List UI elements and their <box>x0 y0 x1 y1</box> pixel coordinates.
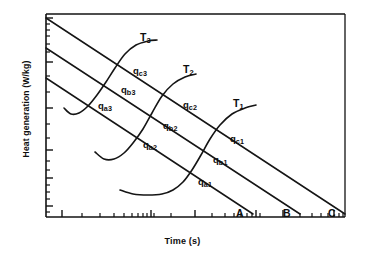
intersection-label-qa2-base: q <box>143 139 149 150</box>
curve-label-t3: T3 <box>140 32 151 43</box>
intersection-label-qb3-sub: b3 <box>127 88 136 97</box>
intersection-label-qb2-sub: b2 <box>169 124 178 133</box>
dissipation-line-c <box>46 18 345 214</box>
curve-label-t2: T2 <box>183 64 194 75</box>
intersection-label-qa3-base: q <box>98 100 104 111</box>
intersection-label-qa2: qa2 <box>143 140 157 150</box>
line-label-c: C <box>328 208 336 219</box>
intersection-label-qb2-base: q <box>163 120 169 131</box>
intersection-label-qa1: qa1 <box>198 177 212 187</box>
intersection-label-qc3: qc3 <box>133 66 147 76</box>
intersection-label-qb2: qb2 <box>163 121 178 131</box>
line-label-a: A <box>236 208 244 219</box>
intersection-label-qa3-sub: a3 <box>104 104 113 113</box>
plot-canvas <box>0 0 365 258</box>
intersection-label-qa3: qa3 <box>98 101 112 111</box>
line-label-b: B <box>283 208 291 219</box>
intersection-label-qc2: qc2 <box>183 100 197 110</box>
intersection-label-qb3: qb3 <box>121 85 136 95</box>
curve-label-t1: T1 <box>233 98 244 109</box>
intersection-label-qc1-base: q <box>230 133 236 144</box>
intersection-label-qc2-sub: c2 <box>189 103 198 112</box>
curve-label-t3-sub: 3 <box>146 36 150 45</box>
intersection-label-qc1-sub: c1 <box>236 137 245 146</box>
dissipation-lines <box>46 18 345 214</box>
heat-generation-figure: Heat generation (W/kg) Time (s) T3 T2 T1… <box>0 0 365 258</box>
intersection-label-qb1: qb1 <box>213 155 228 165</box>
intersection-label-qc3-base: q <box>133 65 139 76</box>
intersection-label-qc3-sub: c3 <box>139 69 148 78</box>
y-axis-label: Heat generation (W/kg) <box>21 29 31 189</box>
intersection-label-qa1-base: q <box>198 176 204 187</box>
intersection-label-qc2-base: q <box>183 99 189 110</box>
intersection-label-qb3-base: q <box>121 84 127 95</box>
intersection-label-qc1: qc1 <box>230 134 244 144</box>
intersection-label-qa1-sub: a1 <box>204 180 213 189</box>
curve-label-t1-sub: 1 <box>239 102 243 111</box>
intersection-label-qb1-base: q <box>213 154 219 165</box>
generation-curves <box>64 40 256 195</box>
generation-curve-t1 <box>120 105 256 195</box>
x-axis-label: Time (s) <box>0 236 365 246</box>
intersection-label-qa2-sub: a2 <box>149 143 158 152</box>
curve-label-t2-sub: 2 <box>189 68 193 77</box>
intersection-label-qb1-sub: b1 <box>219 158 228 167</box>
